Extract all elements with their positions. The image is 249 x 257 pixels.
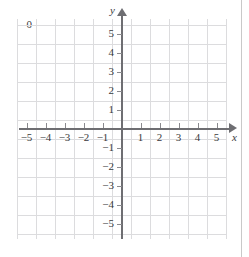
x-axis-tick	[103, 123, 104, 128]
x-axis-tick	[217, 123, 218, 128]
y-axis-tick-label: 1	[96, 104, 114, 115]
y-axis-tick	[117, 224, 122, 225]
y-axis-tick-label: −1	[96, 142, 114, 153]
x-axis-tick	[46, 123, 47, 128]
y-axis-tick	[117, 110, 122, 111]
y-axis-tick	[117, 148, 122, 149]
y-axis-tick	[117, 72, 122, 73]
x-axis-tick-label: −4	[36, 132, 56, 143]
x-axis-tick	[160, 123, 161, 128]
y-axis-tick-label: −4	[96, 199, 114, 210]
x-axis-tick-label: 4	[188, 132, 208, 143]
y-axis-label: y	[110, 5, 115, 16]
x-axis-tick	[179, 123, 180, 128]
y-axis-tick	[117, 186, 122, 187]
y-axis-tick	[117, 34, 122, 35]
y-axis-tick-label: −3	[96, 180, 114, 191]
y-axis-tick	[117, 167, 122, 168]
x-axis-tick-label: 1	[131, 132, 151, 143]
page-edge-rule	[241, 0, 242, 257]
y-axis-tick-label: −5	[96, 218, 114, 229]
x-axis-tick	[27, 123, 28, 128]
y-axis-tick	[117, 53, 122, 54]
coordinate-plane-figure: x y 0 −5−4−3−2−11234554321−1−2−3−4−5	[0, 0, 249, 257]
y-axis-tick-label: 5	[96, 28, 114, 39]
y-axis-tick-label: 3	[96, 66, 114, 77]
x-axis-tick-label: 2	[150, 132, 170, 143]
x-axis-tick-label: −5	[17, 132, 37, 143]
y-axis-tick-label: −2	[96, 161, 114, 172]
y-axis-tick-label: 4	[96, 47, 114, 58]
x-axis-tick	[198, 123, 199, 128]
x-axis-label: x	[232, 132, 237, 143]
x-axis-tick	[65, 123, 66, 128]
grid-line-vertical	[17, 19, 18, 239]
x-axis-tick-label: −3	[55, 132, 75, 143]
y-axis-tick	[117, 91, 122, 92]
plot-area: x y 0 −5−4−3−2−11234554321−1−2−3−4−5	[18, 19, 227, 239]
y-axis-tick-label: 2	[96, 85, 114, 96]
y-axis-arrow-icon	[117, 8, 127, 16]
x-axis-tick-label: 5	[207, 132, 227, 143]
x-axis-tick-label: 3	[169, 132, 189, 143]
y-axis-tick	[117, 205, 122, 206]
x-axis-tick	[84, 123, 85, 128]
x-axis-tick	[141, 123, 142, 128]
x-axis-tick-label: −2	[74, 132, 94, 143]
x-axis-line	[19, 128, 230, 130]
